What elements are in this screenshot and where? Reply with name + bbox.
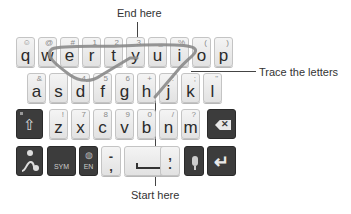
backspace-key[interactable]: ✕ <box>207 109 236 139</box>
language-label: EN <box>80 163 97 170</box>
key-label: d <box>72 83 89 101</box>
key-label: p <box>215 47 232 65</box>
key-j[interactable]: :j <box>159 73 178 103</box>
key-r[interactable]: 1r <box>82 37 101 67</box>
mic-stand-icon <box>194 166 196 170</box>
key-label: z <box>50 119 67 137</box>
swype-key[interactable] <box>16 146 43 176</box>
key-label: x <box>72 119 89 137</box>
mic-icon <box>192 156 198 166</box>
key-s[interactable]: s <box>49 73 68 103</box>
key-label: h <box>138 83 155 101</box>
sym-key[interactable]: SYM <box>47 146 76 176</box>
key-a[interactable]: &a <box>27 73 46 103</box>
key-label: e <box>61 47 78 65</box>
sym-label: SYM <box>48 163 75 170</box>
onscreen-keyboard: ☺q@w#e1r2t3y_u%i(o)p &as4d5f6g+h:j;k"l ⇧… <box>0 0 351 214</box>
globe-icon: ◍ <box>80 150 97 160</box>
key-label: f <box>94 83 111 101</box>
shift-key[interactable]: ⇧ <box>16 109 43 139</box>
comma-period-key[interactable]: , . <box>160 146 180 176</box>
key-i[interactable]: %i <box>170 37 189 67</box>
trace-path <box>0 0 351 214</box>
key-p[interactable]: )p <box>214 37 233 67</box>
key-label: v <box>116 119 133 137</box>
info-icon <box>27 150 33 156</box>
key-m[interactable]: ?m <box>181 109 200 139</box>
key-f[interactable]: 5f <box>93 73 112 103</box>
key-label: c <box>94 119 111 137</box>
key-g[interactable]: 6g <box>115 73 134 103</box>
key-t[interactable]: 2t <box>104 37 123 67</box>
enter-icon: ↵ <box>208 151 235 173</box>
key-label: w <box>39 47 56 65</box>
key-label: r <box>83 47 100 65</box>
mic-key[interactable] <box>184 146 204 176</box>
key-w[interactable]: @w <box>38 37 57 67</box>
key-label: s <box>50 83 67 101</box>
key-label: k <box>182 83 199 101</box>
key-h[interactable]: +h <box>137 73 156 103</box>
dash-comma-key[interactable]: - , <box>101 146 121 176</box>
key-b[interactable]: 0b <box>137 109 156 139</box>
key-o[interactable]: (o <box>192 37 211 67</box>
key-n[interactable]: /n <box>159 109 178 139</box>
key-label: j <box>160 83 177 101</box>
key-d[interactable]: 4d <box>71 73 90 103</box>
key-label: n <box>160 119 177 137</box>
key-k[interactable]: ;k <box>181 73 200 103</box>
key-label: g <box>116 83 133 101</box>
secondary-char: : <box>172 74 174 83</box>
key-label: m <box>182 119 199 137</box>
key-e[interactable]: #e <box>60 37 79 67</box>
key-label: l <box>204 83 221 101</box>
secondary-char: " <box>215 74 218 83</box>
shift-icon: ⇧ <box>17 116 42 134</box>
backspace-x-icon: ✕ <box>221 119 229 129</box>
key-label: q <box>17 47 34 65</box>
key-label: i <box>171 47 188 65</box>
key-label: y <box>127 47 144 65</box>
enter-key[interactable]: ↵ <box>207 146 236 176</box>
swype-gesture-icon <box>21 159 41 173</box>
caps-indicator-icon <box>20 112 23 115</box>
key-l[interactable]: "l <box>203 73 222 103</box>
key-x[interactable]: 7x <box>71 109 90 139</box>
key-z[interactable]: !z <box>49 109 68 139</box>
key-u[interactable]: _u <box>148 37 167 67</box>
language-key[interactable]: ◍ EN <box>79 146 98 176</box>
key-label: o <box>193 47 210 65</box>
key-label: a <box>28 83 45 101</box>
key-c[interactable]: 8c <box>93 109 112 139</box>
comma-label: , <box>102 159 120 174</box>
key-y[interactable]: 3y <box>126 37 145 67</box>
key-label: b <box>138 119 155 137</box>
key-v[interactable]: 9v <box>115 109 134 139</box>
key-label: t <box>105 47 122 65</box>
key-q[interactable]: ☺q <box>16 37 35 67</box>
period-label: . <box>161 157 179 172</box>
key-label: u <box>149 47 166 65</box>
